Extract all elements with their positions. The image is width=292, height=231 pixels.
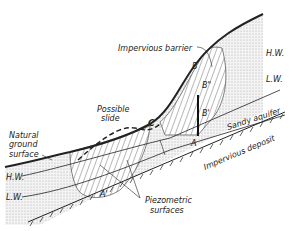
label-possible-slide-1: Possible bbox=[97, 105, 130, 114]
label-point-b1: B' bbox=[202, 109, 210, 118]
label-point-b2: B" bbox=[202, 81, 211, 90]
label-piezometric-1: Piezometric bbox=[145, 196, 192, 205]
label-ground-3: surface bbox=[9, 150, 39, 159]
label-impervious-deposit: Impervious deposit bbox=[202, 133, 277, 172]
label-ground-1: Natural bbox=[9, 131, 39, 140]
label-point-c: C bbox=[148, 118, 155, 128]
label-impervious-barrier: Impervious barrier bbox=[118, 44, 193, 53]
label-point-a1: A' bbox=[99, 190, 108, 199]
label-hw-left: H.W. bbox=[6, 173, 24, 182]
label-possible-slide-2: slide bbox=[101, 114, 120, 123]
label-point-a: A bbox=[190, 139, 196, 148]
label-piezometric-2: surfaces bbox=[150, 206, 184, 215]
label-lw-left: L.W. bbox=[6, 193, 23, 202]
label-lw-right: L.W. bbox=[266, 75, 283, 84]
label-hw-right: H.W. bbox=[266, 49, 284, 58]
cross-section-diagram: Impervious barrier Possible slide Natura… bbox=[0, 0, 292, 231]
label-ground-2: ground bbox=[9, 140, 38, 149]
label-point-b: B bbox=[192, 62, 198, 71]
